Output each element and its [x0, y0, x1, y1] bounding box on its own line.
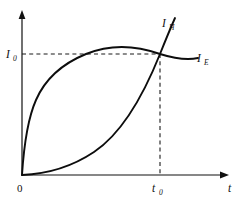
x-axis-name: t — [228, 182, 232, 194]
curve-label-ih: I H — [161, 17, 175, 32]
curve-label-ie: I E — [196, 52, 209, 67]
x-tick-label-t0: t 0 — [152, 182, 163, 197]
curve-ih — [22, 18, 175, 175]
x-axis-arrowhead — [220, 172, 229, 179]
y-tick-label-main: I — [5, 48, 11, 60]
curve-label-ie-sub: E — [203, 58, 209, 67]
curve-label-ih-sub: H — [168, 23, 175, 32]
plot-canvas: I H I E I 0 t 0 t 0 — [0, 0, 248, 206]
curve-label-ie-main: I — [196, 52, 202, 64]
x-tick-label-sub: 0 — [159, 188, 163, 197]
curve-label-ih-main: I — [161, 17, 167, 29]
y-axis-arrowhead — [19, 10, 26, 19]
curve-ie — [22, 47, 198, 175]
y-tick-label-sub: 0 — [13, 54, 17, 63]
origin-label: 0 — [17, 182, 23, 194]
x-tick-label-main: t — [152, 182, 156, 194]
figure-root: I H I E I 0 t 0 t 0 — [0, 0, 248, 206]
y-tick-label-i0: I 0 — [5, 48, 17, 63]
